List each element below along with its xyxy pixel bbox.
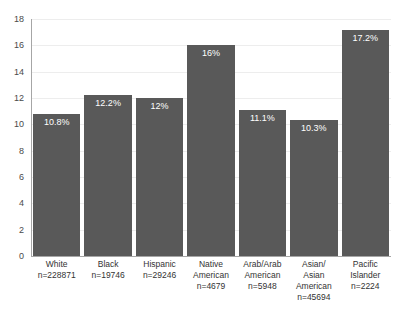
y-tick-label-4: 4 — [0, 199, 24, 208]
bar[interactable]: 10.3% — [290, 120, 337, 256]
y-tick-label-6: 6 — [0, 173, 24, 182]
y-axis-line — [31, 19, 32, 257]
y-tick-label-18: 18 — [0, 15, 24, 24]
bar-slot: 12.2% — [82, 19, 133, 256]
category-count: n=4679 — [185, 281, 236, 292]
bar[interactable]: 12% — [136, 98, 183, 256]
category-name-line: Native — [185, 259, 236, 270]
bar[interactable]: 16% — [187, 45, 234, 256]
plot-area: 10.8%12.2%12%16%11.1%10.3%17.2% — [31, 19, 391, 256]
y-tick-label-12: 12 — [0, 94, 24, 103]
category-count: n=228871 — [31, 270, 82, 281]
bar-slot: 11.1% — [237, 19, 288, 256]
y-tick-label-16: 16 — [0, 41, 24, 50]
category-name-line: Hispanic — [134, 259, 185, 270]
category-count: n=29246 — [134, 270, 185, 281]
bar-value-label: 10.8% — [33, 117, 80, 127]
bar[interactable]: 10.8% — [33, 114, 80, 256]
bar-value-label: 12.2% — [84, 98, 131, 108]
x-axis-category-label: NativeAmericann=4679 — [185, 259, 236, 292]
x-axis-category-label: Whiten=228871 — [31, 259, 82, 281]
bar[interactable]: 17.2% — [342, 30, 389, 256]
x-axis-category-label: Arab/ArabAmericann=5948 — [237, 259, 288, 292]
gridline-0 — [31, 256, 391, 257]
category-count: n=19746 — [82, 270, 133, 281]
bar-chart: 10.8%12.2%12%16%11.1%10.3%17.2% 18161412… — [0, 0, 407, 321]
bar[interactable]: 11.1% — [239, 110, 286, 256]
bar-slot: 10.8% — [31, 19, 82, 256]
category-name-line: Pacific — [340, 259, 391, 270]
category-name-line: Black — [82, 259, 133, 270]
y-tick-label-0: 0 — [0, 252, 24, 261]
y-tick-label-2: 2 — [0, 226, 24, 235]
category-name-line: Islander — [340, 270, 391, 281]
bar-series: 10.8%12.2%12%16%11.1%10.3%17.2% — [31, 19, 391, 256]
bar-slot: 17.2% — [340, 19, 391, 256]
category-count: n=2224 — [340, 281, 391, 292]
category-name-line: Arab/Arab — [237, 259, 288, 270]
bar[interactable]: 12.2% — [84, 95, 131, 256]
x-axis-category-label: Hispanicn=29246 — [134, 259, 185, 281]
bar-slot: 16% — [185, 19, 236, 256]
bar-slot: 10.3% — [288, 19, 339, 256]
x-axis-category-label: Asian/AsianAmericann=45694 — [288, 259, 339, 303]
category-count: n=45694 — [288, 292, 339, 303]
category-name-line: American — [185, 270, 236, 281]
bar-value-label: 17.2% — [342, 33, 389, 43]
bar-slot: 12% — [134, 19, 185, 256]
x-axis-category-label: Blackn=19746 — [82, 259, 133, 281]
bar-value-label: 11.1% — [239, 113, 286, 123]
y-tick-label-14: 14 — [0, 68, 24, 77]
x-axis-category-label: PacificIslandern=2224 — [340, 259, 391, 292]
category-name-line: White — [31, 259, 82, 270]
category-name-line: Asian — [288, 270, 339, 281]
y-tick-label-8: 8 — [0, 147, 24, 156]
category-name-line: American — [288, 281, 339, 292]
category-name-line: Asian/ — [288, 259, 339, 270]
y-tick-label-10: 10 — [0, 120, 24, 129]
bar-value-label: 12% — [136, 101, 183, 111]
category-name-line: American — [237, 270, 288, 281]
x-axis-labels: Whiten=228871Blackn=19746Hispanicn=29246… — [31, 259, 391, 319]
category-count: n=5948 — [237, 281, 288, 292]
bar-value-label: 16% — [187, 48, 234, 58]
bar-value-label: 10.3% — [290, 123, 337, 133]
